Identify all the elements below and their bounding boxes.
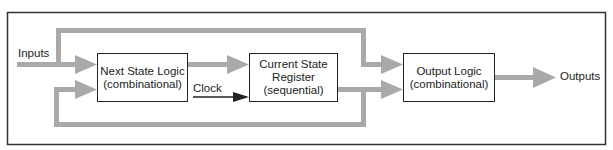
clock-label: Clock [193, 82, 222, 94]
output-logic-title: Output Logic [416, 65, 481, 78]
inputs-branch-top [56, 28, 366, 33]
output-logic-subtitle: (combinational) [410, 78, 489, 91]
inputs-branch-vertical [56, 28, 61, 67]
next-state-logic-block: Next State Logic (combinational) [97, 53, 188, 102]
inputs-branch-down [361, 28, 366, 67]
outputs-label: Outputs [560, 70, 600, 82]
current-state-register: Register [272, 71, 315, 84]
feedback-down [361, 87, 366, 127]
next-state-subtitle: (combinational) [103, 78, 182, 91]
arrow-next-to-current [227, 55, 249, 74]
current-state-subtitle: (sequential) [263, 84, 323, 97]
inputs-bus [17, 62, 77, 67]
arrow-feedback-to-next-state [75, 80, 97, 99]
clock-arrow-icon [233, 92, 249, 102]
next-to-current-bus [187, 62, 229, 67]
arrow-inputs-to-output-logic [381, 55, 403, 74]
feedback-up [54, 87, 59, 127]
inputs-branch-right [361, 62, 383, 67]
next-state-title: Next State Logic [100, 65, 184, 78]
feedback-bottom [54, 122, 366, 127]
arrow-current-to-output [381, 80, 403, 99]
inputs-label: Inputs [18, 47, 49, 59]
current-to-output-bus [337, 87, 383, 92]
arrow-inputs-to-next-state [75, 55, 97, 74]
outputs-bus [494, 75, 535, 80]
current-state-title: Current State [259, 58, 327, 71]
arrow-outputs [533, 67, 556, 88]
current-state-register-block: Current State Register (sequential) [249, 53, 338, 102]
feedback-right [54, 87, 77, 92]
output-logic-block: Output Logic (combinational) [403, 53, 495, 102]
